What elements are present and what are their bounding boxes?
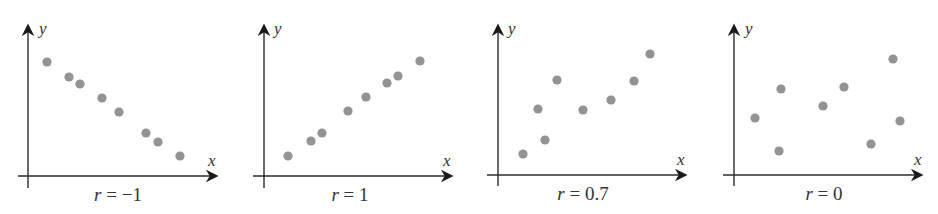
data-point — [533, 104, 542, 113]
data-point — [64, 72, 73, 81]
r-label: r = 1 — [331, 184, 368, 205]
data-point — [97, 93, 106, 102]
panel-r-0: y x r = 0 — [723, 19, 922, 204]
data-point — [888, 54, 897, 63]
r-label: r = 0 — [805, 183, 842, 204]
data-point — [866, 139, 875, 148]
data-point — [645, 49, 654, 58]
data-point — [114, 107, 123, 116]
data-point — [552, 75, 561, 84]
r-label: r = −1 — [94, 184, 142, 205]
data-point — [393, 71, 402, 80]
data-point — [818, 101, 827, 110]
points — [42, 57, 184, 160]
data-point — [415, 56, 424, 65]
x-axis-label: x — [913, 150, 922, 169]
y-axis-label: y — [272, 19, 282, 38]
data-point — [343, 106, 352, 115]
data-point — [578, 105, 587, 114]
data-point — [361, 92, 370, 101]
data-point — [317, 128, 326, 137]
x-axis-label: x — [207, 151, 216, 170]
data-point — [629, 76, 638, 85]
data-point — [42, 57, 51, 66]
y-axis-label: y — [37, 19, 47, 38]
y-axis-label: y — [743, 19, 753, 38]
panel-r-1: y x r = 1 — [253, 19, 451, 205]
scatter-panels: y x r = −1 y x r = 1 y x r = 0.7 y x r =… — [0, 0, 938, 214]
data-point — [776, 84, 785, 93]
data-point — [839, 82, 848, 91]
r-label: r = 0.7 — [557, 183, 608, 204]
x-axis-label: x — [676, 150, 685, 169]
panel-r-0-7: y x r = 0.7 — [487, 19, 685, 204]
data-point — [153, 137, 162, 146]
data-point — [141, 128, 150, 137]
data-point — [606, 95, 615, 104]
data-point — [175, 151, 184, 160]
x-axis-label: x — [442, 151, 451, 170]
data-point — [382, 78, 391, 87]
data-point — [750, 113, 759, 122]
y-axis-label: y — [506, 19, 516, 38]
data-point — [306, 136, 315, 145]
points — [518, 49, 654, 158]
data-point — [895, 116, 904, 125]
panel-r-minus-1: y x r = −1 — [18, 19, 216, 205]
data-point — [518, 149, 527, 158]
data-point — [283, 151, 292, 160]
points — [283, 56, 424, 160]
data-point — [75, 79, 84, 88]
data-point — [774, 146, 783, 155]
points — [750, 54, 904, 155]
data-point — [540, 135, 549, 144]
